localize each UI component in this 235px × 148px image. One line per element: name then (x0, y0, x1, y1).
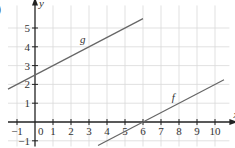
x-tick-label: 8 (176, 125, 182, 137)
series-label-g: g (80, 33, 86, 45)
y-axis-label: y (38, 0, 44, 9)
chart-plot: xy−1012345678910−112345gf (0, 0, 235, 148)
x-tick-label: 6 (140, 125, 146, 137)
y-tick-label: 3 (25, 60, 31, 72)
x-tick-label: 4 (104, 125, 110, 137)
y-tick-label: 4 (25, 41, 31, 53)
y-axis-arrow-icon (32, 0, 38, 5)
y-tick-label: −1 (18, 135, 30, 147)
series-label-f: f (172, 91, 177, 103)
x-tick-label: 0 (38, 125, 44, 137)
x-tick-label: 3 (86, 125, 92, 137)
x-tick-label: 2 (68, 125, 74, 137)
x-tick-label: 10 (210, 125, 222, 137)
x-tick-label: 9 (194, 125, 200, 137)
y-tick-label: 1 (25, 97, 31, 109)
y-tick-label: 5 (25, 22, 31, 34)
x-tick-label: 7 (158, 125, 164, 137)
x-axis-label: x (232, 108, 235, 120)
x-tick-label: 1 (50, 125, 56, 137)
